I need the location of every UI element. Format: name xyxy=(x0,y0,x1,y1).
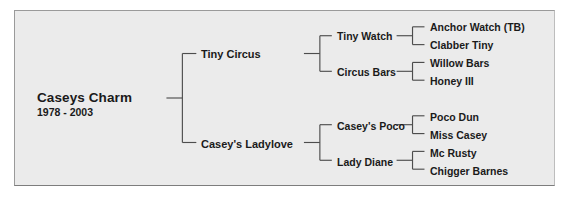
generation2-node-3: Lady Diane xyxy=(337,157,393,168)
generation3-node-4: Poco Dun xyxy=(430,112,479,123)
generation3-node-1: Clabber Tiny xyxy=(430,40,493,51)
generation1-node-1: Casey's Ladylove xyxy=(201,139,293,150)
generation3-node-0: Anchor Watch (TB) xyxy=(430,22,525,33)
generation3-node-3: Honey III xyxy=(430,76,474,87)
generation2-node-0: Tiny Watch xyxy=(337,31,392,42)
generation3-node-2: Willow Bars xyxy=(430,58,489,69)
subject-dates: 1978 - 2003 xyxy=(37,107,93,118)
generation3-node-6: Mc Rusty xyxy=(430,148,477,159)
generation3-node-7: Chigger Barnes xyxy=(430,166,508,177)
generation1-node-0: Tiny Circus xyxy=(201,49,261,60)
generation3-node-5: Miss Casey xyxy=(430,130,487,141)
pedigree-chart-panel: Caseys Charm 1978 - 2003 Tiny Circus Cas… xyxy=(14,10,555,186)
subject-name: Caseys Charm xyxy=(37,91,132,105)
generation2-node-1: Circus Bars xyxy=(337,67,396,78)
generation2-node-2: Casey's Poco xyxy=(337,121,405,132)
pedigree-tree: Caseys Charm 1978 - 2003 Tiny Circus Cas… xyxy=(15,11,554,185)
